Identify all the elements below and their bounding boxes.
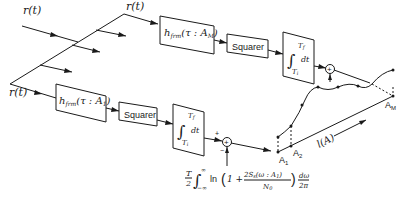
- axis-label: l(A): [315, 132, 336, 150]
- input-label-bottom: r(t): [9, 86, 27, 99]
- point-label-am: AM: [385, 100, 396, 111]
- svg-text:dt: dt: [191, 126, 200, 135]
- svg-text:2: 2: [185, 179, 191, 188]
- input-label-top: r(t): [126, 0, 144, 13]
- svg-text:2π: 2π: [298, 182, 308, 190]
- bias-formula: T 2 ∫ ∞ −∞ ln ( 1 + 2Ss(ω : A1) N0 ) dω …: [185, 166, 309, 191]
- svg-text:dω: dω: [299, 172, 309, 180]
- svg-text:∞: ∞: [201, 166, 206, 173]
- receiver-block-diagram: r(t) r(t) r(t) hfrm(τ : AM) Squarer ∫ Tf…: [0, 0, 409, 214]
- svg-text:T: T: [186, 169, 192, 178]
- point-label-a2: A2: [293, 148, 303, 159]
- top-branch: hfrm(τ : AM) Squarer ∫ Tf Ti dt +: [160, 16, 370, 84]
- svg-text:(: (: [221, 171, 226, 187]
- bottom-branch: hfrm(τ : A1) Squarer ∫ Tf Ti dt + + −: [56, 84, 271, 166]
- svg-text:+: +: [215, 130, 219, 137]
- svg-text:): ): [291, 171, 296, 187]
- svg-text:dt: dt: [301, 55, 310, 64]
- svg-text:Tf: Tf: [298, 42, 306, 51]
- svg-text:Ti: Ti: [182, 139, 189, 147]
- svg-text:−: −: [220, 147, 224, 154]
- svg-text:+: +: [224, 138, 229, 147]
- input-label-middle: r(t): [23, 4, 41, 17]
- svg-text:ln: ln: [210, 174, 217, 184]
- input-fan: [10, 14, 158, 98]
- svg-text:Tf: Tf: [188, 112, 196, 121]
- svg-text:1 +: 1 +: [227, 174, 243, 184]
- svg-text:Ti: Ti: [292, 68, 299, 76]
- squarer-label-bottom: Squarer: [124, 110, 156, 120]
- likelihood-curve: [278, 70, 393, 137]
- likelihood-plot: l(A) A1 A2 AM: [277, 69, 397, 167]
- svg-text:2Ss(ω : A1): 2Ss(ω : A1): [243, 171, 282, 179]
- point-label-a1: A1: [279, 155, 289, 166]
- svg-text:+: +: [327, 65, 332, 74]
- svg-text:N0: N0: [262, 183, 273, 191]
- squarer-label-top: Squarer: [232, 42, 264, 52]
- svg-text:−∞: −∞: [197, 184, 207, 191]
